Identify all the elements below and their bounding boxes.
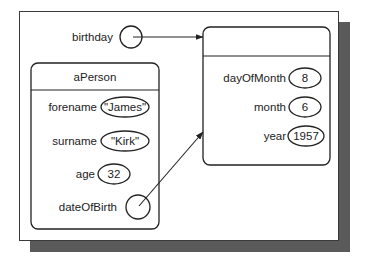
attribute-name: dayOfMonth	[223, 72, 286, 84]
attribute-name: surname	[52, 135, 97, 147]
diagram-canvas: birthday aPerson forename "James" surnam…	[0, 0, 365, 261]
attribute-value: "Kirk"	[111, 135, 139, 147]
attribute-name: dateOfBirth	[59, 201, 117, 213]
attribute-value: 6	[302, 101, 308, 113]
birthday-label: birthday	[72, 31, 113, 43]
birthday-reference: birthday	[72, 26, 203, 48]
attribute-name: forename	[48, 101, 97, 113]
person-object-title: aPerson	[74, 71, 117, 83]
attribute-name: month	[254, 101, 286, 113]
attribute-value: 8	[302, 72, 308, 84]
attribute-value: 32	[108, 168, 121, 180]
attribute-name: year	[264, 130, 287, 142]
person-object: aPerson forename "James" surname "Kirk" …	[31, 63, 159, 229]
date-object: dayOfMonth 8 month 6 year 1957	[203, 27, 330, 165]
attribute-value: 1957	[293, 130, 319, 142]
reference-circle	[126, 195, 150, 219]
attribute-value: "James"	[104, 101, 146, 113]
attribute-name: age	[76, 168, 95, 180]
